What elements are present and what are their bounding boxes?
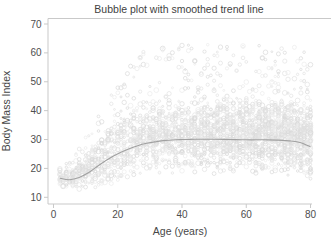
bubble <box>229 161 231 163</box>
bubble <box>128 103 133 108</box>
bubble <box>148 92 152 96</box>
bubble <box>299 91 303 95</box>
bubble <box>194 166 196 168</box>
bubble <box>94 186 97 189</box>
bubble <box>232 54 235 57</box>
bubble <box>190 47 193 50</box>
bubble <box>283 59 287 63</box>
bubble <box>187 107 190 110</box>
bubble <box>309 177 312 180</box>
bubble <box>206 63 210 67</box>
bubble <box>171 172 173 174</box>
bubble <box>216 51 218 53</box>
bubble <box>110 102 113 105</box>
bubble <box>94 145 97 148</box>
bubble <box>203 50 206 53</box>
bubble <box>109 182 113 186</box>
bubble <box>175 132 177 134</box>
bubble <box>309 163 311 165</box>
bubble <box>238 63 241 66</box>
bubble <box>245 108 247 110</box>
bubble <box>242 106 245 109</box>
bubble <box>300 113 302 115</box>
y-tick-label: 30 <box>30 134 42 145</box>
bubble <box>264 58 267 61</box>
bubble <box>120 175 122 177</box>
bubble <box>141 62 145 66</box>
bubble <box>229 156 231 158</box>
bubble <box>309 99 311 101</box>
bubble <box>165 159 167 161</box>
bubble <box>223 105 225 107</box>
bubble <box>167 101 172 106</box>
bubble <box>114 109 116 111</box>
bubble <box>216 152 218 154</box>
bubble <box>167 92 171 96</box>
bubble <box>97 130 100 133</box>
bubble <box>142 101 145 104</box>
bubble <box>110 151 112 153</box>
bubble <box>110 127 113 130</box>
bubble <box>129 170 132 173</box>
bubble <box>216 94 219 97</box>
bubble <box>91 175 94 178</box>
bubble <box>220 147 222 149</box>
bubble <box>200 163 202 165</box>
bubble <box>268 158 270 160</box>
bubble <box>142 124 144 126</box>
y-axis-label: Body Mass Index <box>0 70 12 151</box>
bubble <box>213 161 216 164</box>
bubble <box>139 65 141 67</box>
bubble <box>97 115 100 118</box>
bubble <box>136 110 138 112</box>
x-tick-label: 80 <box>305 209 317 220</box>
bubble <box>257 84 261 88</box>
bubble <box>206 83 209 86</box>
bubble <box>142 106 146 110</box>
bubble <box>155 166 158 169</box>
bubble <box>228 62 232 66</box>
bubble <box>236 161 238 163</box>
y-tick-label: 20 <box>30 163 42 174</box>
bubble <box>190 79 193 82</box>
bubble <box>226 49 228 51</box>
bubble <box>184 69 186 71</box>
bubble <box>241 56 245 60</box>
bubble <box>84 147 87 150</box>
bubble <box>267 166 270 169</box>
bubble <box>212 66 216 70</box>
bubble <box>305 82 310 87</box>
bubble <box>168 126 170 128</box>
bubble <box>139 121 142 124</box>
bubble <box>283 51 286 54</box>
bubble <box>170 164 174 168</box>
bubble <box>220 119 222 121</box>
bubble <box>297 149 299 151</box>
x-tick-label: 20 <box>112 209 124 220</box>
bubble <box>282 91 287 96</box>
chart-title: Bubble plot with smoothed trend line <box>94 3 263 15</box>
bubble <box>225 94 229 98</box>
bubble <box>180 43 184 47</box>
bubble <box>219 74 222 77</box>
bubble <box>267 84 271 88</box>
bubble <box>248 119 250 121</box>
bubble <box>88 135 90 137</box>
bubble <box>303 102 306 105</box>
bubble <box>287 92 289 94</box>
bubble <box>263 50 268 55</box>
bubble <box>164 165 168 169</box>
bubble <box>186 49 190 53</box>
bubble <box>126 93 130 97</box>
bubble <box>274 158 276 160</box>
bubble <box>139 172 141 174</box>
bubble <box>168 112 170 114</box>
bubble <box>239 116 241 118</box>
bubble <box>283 71 288 76</box>
bubble <box>180 102 184 106</box>
bubble <box>241 44 246 49</box>
bubble <box>191 152 193 154</box>
bubble <box>280 165 283 168</box>
bubble <box>158 139 160 141</box>
bubble <box>77 187 82 192</box>
